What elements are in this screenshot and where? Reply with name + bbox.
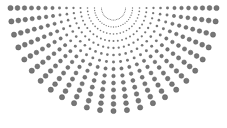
radial-scatter-canvas [0,0,227,128]
radial-scatter-figure [0,0,227,128]
